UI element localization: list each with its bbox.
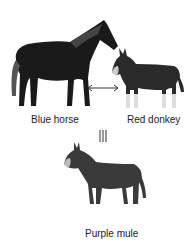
donkey-illustration xyxy=(108,46,186,110)
donkey-label: Red donkey xyxy=(127,114,180,125)
horse-illustration xyxy=(8,18,118,110)
mule-label: Purple mule xyxy=(85,228,138,239)
mule-illustration xyxy=(62,140,152,206)
double-arrow-icon xyxy=(86,84,120,92)
horse-label: Blue horse xyxy=(31,114,79,125)
